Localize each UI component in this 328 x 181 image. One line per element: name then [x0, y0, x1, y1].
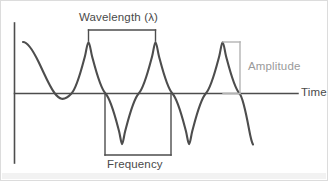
wavelength-bracket	[89, 30, 156, 41]
frequency-label: Frequency	[107, 159, 163, 171]
wave-plot-svg	[1, 1, 328, 181]
frequency-bracket	[105, 94, 171, 156]
time-axis-label: Time	[301, 87, 327, 99]
wave-diagram-figure: Wavelength (λ) Frequency Amplitude Time	[0, 0, 328, 181]
wavelength-label: Wavelength (λ)	[79, 12, 158, 24]
amplitude-label: Amplitude	[248, 61, 301, 73]
bottom-band-divider	[2, 173, 326, 179]
